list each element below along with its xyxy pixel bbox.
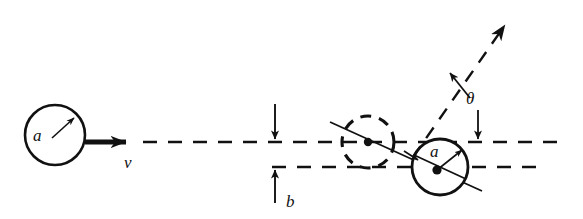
impact-parameter-label: b: [286, 192, 295, 211]
velocity-label: v: [124, 153, 132, 172]
target-radius-label: a: [430, 142, 439, 161]
incident-radius-label: a: [33, 126, 42, 145]
scattered-trajectory-arrow: [413, 25, 505, 157]
target-initial-center-dot: [364, 138, 372, 146]
scattering-figure: a v b a θ: [0, 0, 583, 219]
scattering-diagram-canvas: a v b a θ: [0, 0, 583, 219]
scattering-angle-label: θ: [466, 89, 474, 108]
